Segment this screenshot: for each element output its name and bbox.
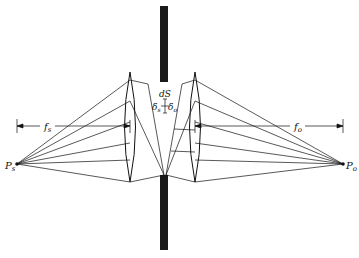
screen-top-bar <box>160 6 168 82</box>
source-focal-length-label: fs <box>43 121 52 134</box>
optics-diagram: Ps Po fs fo dS δs δo <box>0 0 359 258</box>
observer-point-dot <box>341 162 345 166</box>
observer-point-label: Po <box>345 160 357 173</box>
source-point-label: Ps <box>4 160 16 173</box>
surface-element-label: dS <box>159 89 171 99</box>
delta-s-label: δs <box>152 102 161 113</box>
observer-focal-length-dimension <box>195 119 343 133</box>
source-point-dot <box>15 162 19 166</box>
delta-o-label: δo <box>168 102 177 113</box>
source-focal-length-dimension <box>17 119 130 133</box>
observer-focal-length-label: fo <box>293 121 302 134</box>
screen-bottom-bar <box>160 175 168 250</box>
source-rays <box>17 80 164 182</box>
